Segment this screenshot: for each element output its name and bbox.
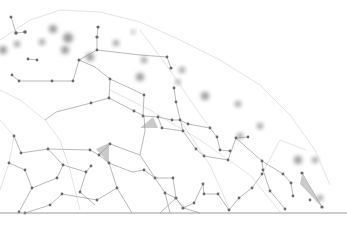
network-nodes <box>8 16 324 215</box>
network-edges <box>0 10 330 213</box>
blurred-nodes <box>0 25 323 201</box>
plexus-network-illustration <box>0 0 347 225</box>
